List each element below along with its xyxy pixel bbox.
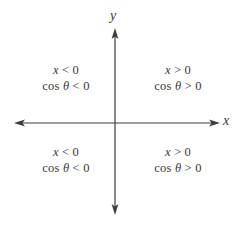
y-axis-label: y (110, 9, 116, 23)
quadrant-4-cos-sign: cos θ > 0 (126, 160, 230, 176)
quadrant-1-x-sign: x > 0 (126, 62, 230, 78)
axes (0, 0, 235, 228)
quadrant-3-x-sign: x < 0 (14, 144, 118, 160)
quadrant-1-cos-sign: cos θ > 0 (126, 78, 230, 94)
x-axis-label: x (223, 114, 229, 128)
quadrant-4-annotation: x > 0 cos θ > 0 (126, 144, 230, 176)
quadrant-2-annotation: x < 0 cos θ < 0 (14, 62, 118, 94)
quadrant-4-x-sign: x > 0 (126, 144, 230, 160)
coordinate-plane-diagram: y x x < 0 cos θ < 0 x > 0 cos θ > 0 (0, 0, 235, 228)
quadrant-1-annotation: x > 0 cos θ > 0 (126, 62, 230, 94)
quadrant-3-cos-sign: cos θ < 0 (14, 160, 118, 176)
quadrant-3-annotation: x < 0 cos θ < 0 (14, 144, 118, 176)
quadrant-2-cos-sign: cos θ < 0 (14, 78, 118, 94)
quadrant-2-x-sign: x < 0 (14, 62, 118, 78)
